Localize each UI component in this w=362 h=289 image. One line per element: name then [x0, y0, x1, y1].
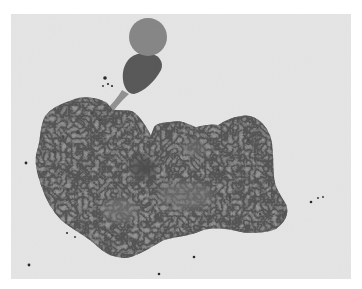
speck [66, 232, 68, 234]
speck [158, 273, 161, 276]
micrograph [0, 0, 362, 289]
micrograph-frame [0, 0, 362, 289]
speck [102, 85, 104, 87]
speck [107, 83, 109, 85]
speck [193, 256, 196, 259]
speck [28, 264, 31, 267]
speck [310, 201, 313, 204]
speck [25, 162, 28, 165]
speck [74, 236, 76, 238]
grain-overlay [11, 14, 351, 279]
speck [317, 197, 319, 199]
speck [111, 85, 113, 87]
speck [322, 196, 324, 198]
speck [103, 76, 107, 80]
